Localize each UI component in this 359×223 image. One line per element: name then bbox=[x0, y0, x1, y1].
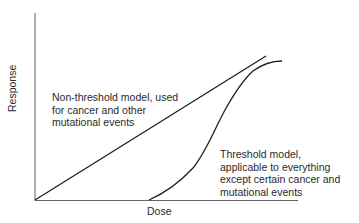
threshold-annotation: Threshold model, applicable to everythin… bbox=[220, 148, 340, 198]
y-axis-label: Response bbox=[6, 65, 18, 112]
x-axis-label: Dose bbox=[147, 205, 172, 217]
non-threshold-annotation: Non-threshold model, used for cancer and… bbox=[52, 91, 178, 129]
